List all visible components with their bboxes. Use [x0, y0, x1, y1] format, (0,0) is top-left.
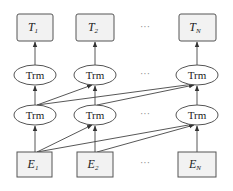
upper-transformer-layer: Trm Trm ··· Trm — [14, 65, 218, 85]
lower-trm-node-1: Trm — [14, 105, 56, 125]
output-node-t1: T1 — [17, 14, 53, 41]
svg-text:Trm: Trm — [86, 69, 105, 81]
upper-trm-node-2: Trm — [74, 65, 116, 85]
lower-trm-node-n: Trm — [176, 105, 218, 125]
lower-layer-ellipsis: ··· — [140, 108, 150, 119]
svg-text:Trm: Trm — [26, 69, 45, 81]
upper-layer-ellipsis: ··· — [140, 68, 150, 79]
edges-lower-to-upper — [35, 84, 197, 105]
output-node-t2: T2 — [76, 14, 114, 41]
lower-transformer-layer: Trm Trm ··· Trm — [14, 105, 218, 125]
upper-trm-node-1: Trm — [14, 65, 56, 85]
input-node-en: EN — [178, 152, 216, 177]
lower-trm-node-2: Trm — [74, 105, 116, 125]
edges-upper-to-output — [35, 42, 197, 65]
input-ellipsis: ··· — [140, 157, 150, 168]
input-row: E1 E2 ··· EN — [17, 152, 216, 177]
svg-text:Trm: Trm — [188, 69, 207, 81]
svg-text:Trm: Trm — [188, 109, 207, 121]
output-ellipsis: ··· — [140, 21, 150, 32]
output-node-tn: TN — [179, 14, 216, 41]
svg-text:Trm: Trm — [86, 109, 105, 121]
transformer-diagram: T1 T2 ··· TN Trm Trm ··· Trm Trm — [0, 0, 233, 191]
upper-trm-node-n: Trm — [176, 65, 218, 85]
svg-text:Trm: Trm — [26, 109, 45, 121]
input-node-e1: E1 — [17, 152, 52, 177]
edges-input-to-lower — [35, 124, 197, 152]
output-row: T1 T2 ··· TN — [17, 14, 216, 41]
input-node-e2: E2 — [77, 152, 113, 177]
